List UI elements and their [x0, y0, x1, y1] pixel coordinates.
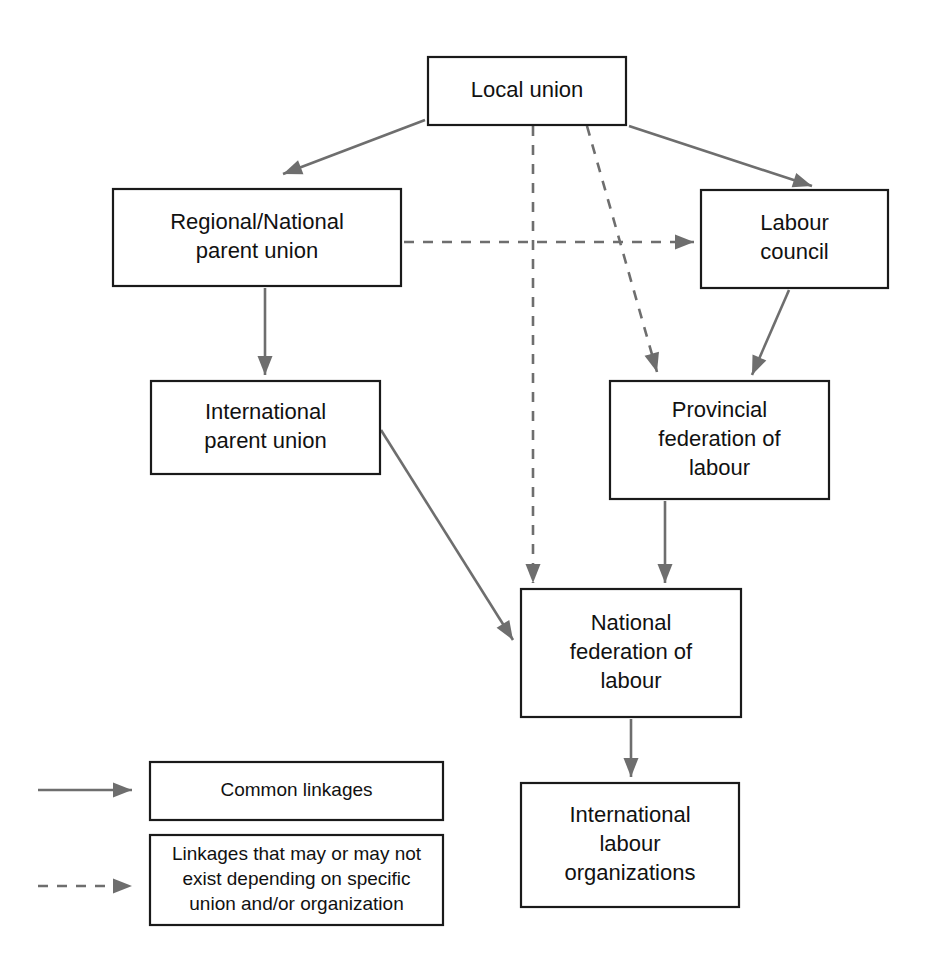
legend-item-conditional-linkages-label-line-2: exist depending on specific — [182, 868, 410, 889]
node-international-parent-union[interactable]: Internationalparent union — [151, 381, 380, 474]
node-international-labour-organizations-label-line-3: organizations — [565, 860, 696, 885]
node-local-union-label-line-1: Local union — [471, 77, 584, 102]
node-international-labour-organizations-label-line-2: labour — [599, 831, 660, 856]
node-labour-council-label-line-1: Labour — [760, 210, 829, 235]
node-international-labour-organizations[interactable]: Internationallabourorganizations — [521, 783, 739, 907]
edge-local-union-to-provincial-federation-arrowhead — [645, 352, 659, 372]
diagram-root: Local unionRegional/Nationalparent union… — [0, 0, 929, 964]
node-provincial-federation-of-labour-label-line-3: labour — [689, 455, 750, 480]
legend-item-conditional-linkages-label-line-3: union and/or organization — [189, 893, 403, 914]
edge-labour-council-to-provincial-federation-arrowhead — [752, 355, 766, 375]
node-national-federation-of-labour-label-line-1: National — [591, 610, 672, 635]
node-labour-council-label-line-2: council — [760, 239, 828, 264]
legend-item-common-linkages-label-line-1: Common linkages — [220, 779, 372, 800]
node-local-union[interactable]: Local union — [428, 57, 626, 125]
node-provincial-federation-of-labour-label-line-1: Provincial — [672, 397, 767, 422]
legend-layer: Common linkagesLinkages that may or may … — [38, 762, 443, 925]
edge-regional-national-to-labour-council-arrowhead — [675, 235, 694, 250]
node-national-federation-of-labour-label-line-2: federation of — [570, 639, 693, 664]
union-structure-diagram: Local unionRegional/Nationalparent union… — [0, 0, 929, 964]
edge-provincial-federation-to-national-federation-arrowhead — [658, 564, 673, 583]
edge-local-union-to-regional-national-line — [283, 120, 425, 174]
legend-item-common-linkages: Common linkages — [38, 762, 443, 820]
edge-international-parent-to-national-federation-arrowhead — [497, 620, 513, 640]
edge-regional-national-to-international-parent-arrowhead — [258, 356, 273, 375]
edge-international-parent-to-national-federation-line — [381, 430, 513, 640]
edge-local-union-to-national-federation-arrowhead — [526, 564, 541, 583]
legend-item-conditional-linkages: Linkages that may or may notexist depend… — [38, 835, 443, 925]
edge-national-federation-to-international-labour-orgs-arrowhead — [624, 758, 639, 777]
node-labour-council[interactable]: Labourcouncil — [701, 190, 888, 288]
edge-local-union-to-regional-national-arrowhead — [283, 160, 303, 174]
node-international-parent-union-label-line-1: International — [205, 399, 326, 424]
edge-local-union-to-provincial-federation-line — [587, 126, 657, 372]
edge-local-union-to-labour-council-line — [629, 126, 812, 186]
edge-local-union-to-labour-council-arrowhead — [792, 173, 812, 187]
node-regional-national-parent-union-label-line-1: Regional/National — [170, 209, 344, 234]
node-international-parent-union-label-line-2: parent union — [204, 428, 326, 453]
node-provincial-federation-of-labour[interactable]: Provincialfederation oflabour — [610, 381, 829, 499]
node-provincial-federation-of-labour-label-line-2: federation of — [658, 426, 781, 451]
legend-item-conditional-linkages-label-line-1: Linkages that may or may not — [172, 843, 422, 864]
node-regional-national-parent-union-label-line-2: parent union — [196, 238, 318, 263]
node-national-federation-of-labour[interactable]: Nationalfederation oflabour — [521, 589, 741, 717]
node-regional-national-parent-union[interactable]: Regional/Nationalparent union — [113, 189, 401, 286]
legend-sample-common-linkages-arrowhead — [113, 783, 132, 798]
node-international-labour-organizations-label-line-1: International — [569, 802, 690, 827]
legend-sample-conditional-linkages-arrowhead — [113, 879, 132, 894]
node-national-federation-of-labour-label-line-3: labour — [600, 668, 661, 693]
